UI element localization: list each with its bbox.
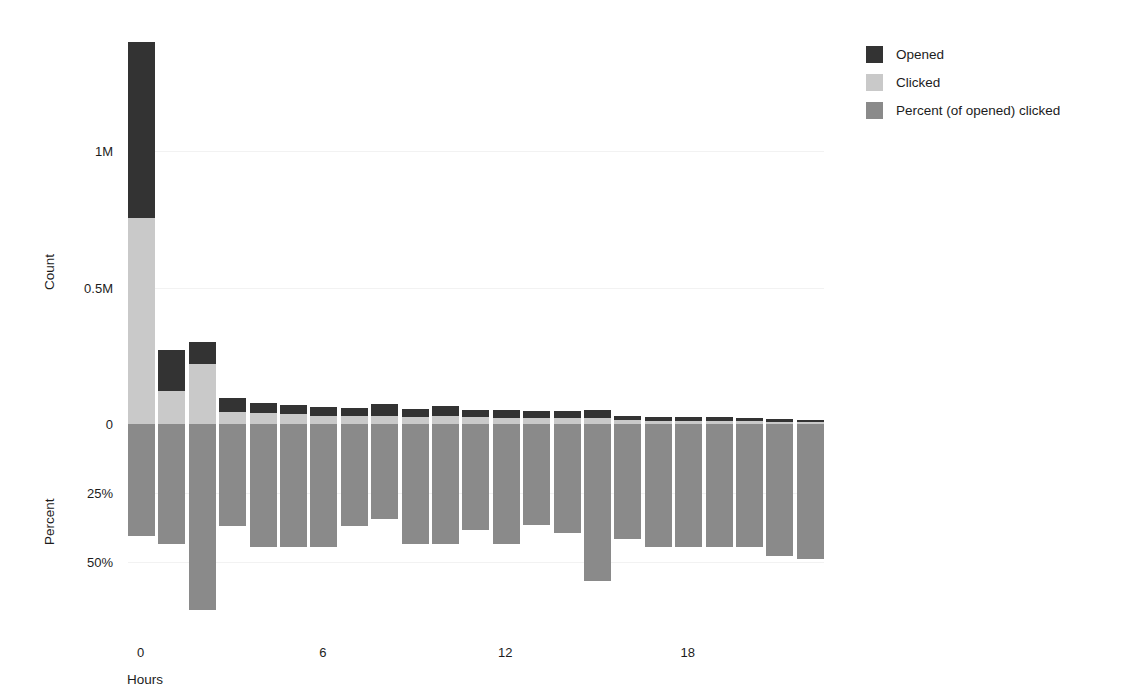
bar-segment-opened: [462, 410, 489, 418]
chart-figure: 00.5M1M25%50%061218 Count Percent Hours …: [0, 0, 1140, 696]
gridline: [128, 288, 824, 289]
bar-segment-opened: [736, 418, 763, 421]
legend-item[interactable]: Clicked: [866, 68, 1060, 96]
x-tick: 12: [498, 645, 512, 660]
bar-segment-percent: [371, 424, 398, 519]
bar-segment-clicked: [158, 391, 185, 424]
bar-segment-percent: [584, 424, 611, 581]
bar-segment-percent: [402, 424, 429, 544]
y-tick-count: 0: [106, 417, 113, 432]
bar-segment-clicked: [280, 414, 307, 424]
x-tick: 0: [137, 645, 144, 660]
bar-segment-percent: [310, 424, 337, 547]
bar-segment-opened: [645, 417, 672, 421]
bar-segment-percent: [766, 424, 793, 556]
bar-segment-clicked: [310, 416, 337, 424]
y-axis-title-percent: Percent: [42, 498, 57, 545]
bar-segment-percent: [706, 424, 733, 547]
bar-segment-percent: [341, 424, 368, 526]
bar-segment-percent: [554, 424, 581, 533]
bar-segment-clicked: [219, 412, 246, 424]
bar-segment-opened: [341, 408, 368, 417]
bar-segment-clicked: [462, 417, 489, 424]
bar-segment-clicked: [250, 413, 277, 424]
legend-label: Opened: [896, 47, 944, 62]
bar-segment-percent: [280, 424, 307, 547]
bar-segment-percent: [736, 424, 763, 547]
bar-segment-opened: [554, 411, 581, 418]
bar-segment-opened: [493, 410, 520, 417]
bar-segment-opened: [614, 416, 641, 420]
x-tick: 6: [319, 645, 326, 660]
x-axis-title: Hours: [127, 672, 163, 687]
gridline: [128, 562, 824, 563]
bar-segment-percent: [250, 424, 277, 547]
bar-segment-opened: [310, 407, 337, 416]
bar-segment-opened: [280, 405, 307, 414]
bar-segment-opened: [523, 411, 550, 418]
bar-segment-opened: [432, 406, 459, 416]
bar-segment-percent: [797, 424, 824, 559]
legend-item[interactable]: Percent (of opened) clicked: [866, 96, 1060, 124]
legend-item[interactable]: Opened: [866, 40, 1060, 68]
legend-swatch-icon: [866, 46, 883, 63]
bar-segment-percent: [462, 424, 489, 530]
bar-segment-percent: [523, 424, 550, 525]
y-tick-count: 1M: [95, 144, 113, 159]
bar-segment-opened: [250, 403, 277, 413]
bar-segment-clicked: [402, 417, 429, 424]
bar-segment-clicked: [341, 416, 368, 424]
bar-segment-opened: [402, 409, 429, 417]
y-tick-percent: 50%: [87, 555, 113, 570]
bar-segment-opened: [584, 410, 611, 418]
bar-segment-clicked: [371, 416, 398, 424]
bar-segment-clicked: [189, 364, 216, 424]
bar-segment-percent: [432, 424, 459, 544]
bar-segment-clicked: [432, 416, 459, 424]
bar-segment-opened: [189, 342, 216, 364]
bar-segment-opened: [766, 419, 793, 422]
bar-segment-opened: [128, 42, 155, 218]
y-tick-count: 0.5M: [84, 280, 113, 295]
bar-segment-opened: [158, 350, 185, 391]
gridline: [128, 151, 824, 152]
bar-segment-opened: [706, 417, 733, 421]
bar-segment-percent: [645, 424, 672, 547]
bar-segment-percent: [128, 424, 155, 536]
bar-segment-opened: [675, 417, 702, 421]
bar-segment-percent: [675, 424, 702, 547]
bar-segment-clicked: [128, 218, 155, 424]
bar-segment-percent: [158, 424, 185, 544]
y-tick-percent: 25%: [87, 486, 113, 501]
bar-segment-percent: [614, 424, 641, 539]
bar-segment-percent: [189, 424, 216, 610]
legend-label: Percent (of opened) clicked: [896, 103, 1060, 118]
bar-segment-opened: [797, 420, 824, 422]
legend: OpenedClickedPercent (of opened) clicked: [866, 40, 1060, 124]
bar-segment-percent: [493, 424, 520, 544]
bar-segment-opened: [219, 398, 246, 412]
bar-segment-percent: [219, 424, 246, 526]
y-axis-title-count: Count: [42, 254, 57, 290]
legend-swatch-icon: [866, 102, 883, 119]
legend-swatch-icon: [866, 74, 883, 91]
bar-segment-opened: [371, 404, 398, 415]
x-tick: 18: [680, 645, 694, 660]
legend-label: Clicked: [896, 75, 940, 90]
